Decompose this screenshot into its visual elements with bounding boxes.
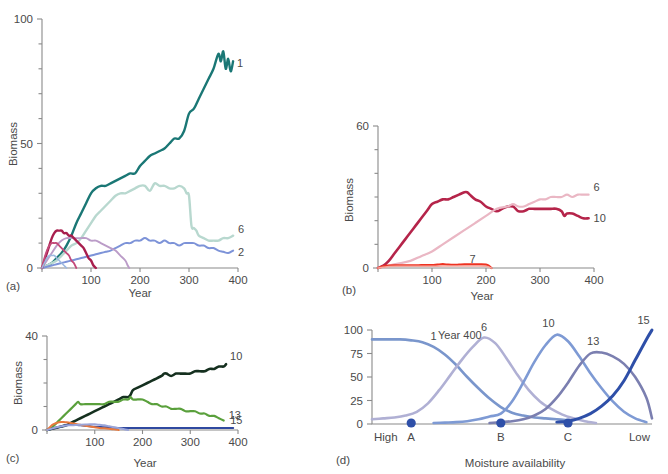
panel-b-series-labels: 1067 xyxy=(469,181,605,265)
series-label-6: 6 xyxy=(481,321,487,333)
y-tick-label: 50 xyxy=(20,138,33,150)
panel-c: 100200300400040 101315 Biomass Year (c) xyxy=(0,312,320,474)
series-label-2: 2 xyxy=(238,246,244,258)
panel-d-xlabel: Moisture availability xyxy=(465,457,566,469)
y-tick-label: 75 xyxy=(350,348,363,360)
panel-c-ticks xyxy=(42,336,238,434)
panel-b: 100200300400060 1067 Biomass Year (b) xyxy=(310,110,668,305)
moisture-point-C xyxy=(563,418,572,427)
series-label-10: 10 xyxy=(594,212,606,224)
series-line-6 xyxy=(42,183,233,268)
y-tick-label: 25 xyxy=(350,395,363,407)
panel-c-plot-area: 100200300400040 101315 xyxy=(25,330,247,448)
x-tick-label: 200 xyxy=(133,436,152,448)
panel-d-curves xyxy=(372,330,652,423)
moisture-point-label-C: C xyxy=(564,431,572,443)
x-tick-label: 100 xyxy=(81,274,100,286)
moisture-point-A xyxy=(407,418,416,427)
series-label-13: 13 xyxy=(587,335,599,347)
series-line-2 xyxy=(42,238,233,268)
panel-c-series-labels: 101315 xyxy=(229,350,243,426)
panel-a-axes xyxy=(42,19,238,268)
x-tick-label: 300 xyxy=(530,274,549,286)
series-line-10 xyxy=(434,335,647,423)
panel-b-plot-area: 100200300400060 1067 xyxy=(356,120,606,286)
panel-b-tick-labels: 100200300400060 xyxy=(356,120,603,286)
y-tick-label: 0 xyxy=(357,418,363,430)
y-tick-label: 60 xyxy=(356,120,369,132)
panel-d-svg: ABC 0255075100HighLow 16101315 Year 400 … xyxy=(330,312,668,474)
series-label-1: 1 xyxy=(237,57,243,69)
series-label-6: 6 xyxy=(594,181,600,193)
x-tick-label: 300 xyxy=(179,274,198,286)
panel-d-annotation: Year 400 xyxy=(438,329,482,341)
panel-a-tag: (a) xyxy=(6,280,20,292)
panel-b-ylabel: Biomass xyxy=(343,178,355,222)
y-tick-label: 50 xyxy=(350,371,363,383)
x-tick-label: 400 xyxy=(228,274,247,286)
panel-b-xlabel: Year xyxy=(470,290,493,302)
series-label-6: 6 xyxy=(238,223,244,235)
panel-a-series-labels: 162 xyxy=(237,57,244,257)
series-label-15: 15 xyxy=(637,314,649,326)
x-tick-label: 100 xyxy=(85,436,104,448)
x-axis-label-high: High xyxy=(374,431,398,443)
y-tick-label: 0 xyxy=(363,262,369,274)
panel-c-curves xyxy=(47,364,233,430)
panel-b-curves xyxy=(378,192,589,268)
panel-a-plot-area: 100200300400050100 162 xyxy=(14,13,248,286)
panel-a: 100200300400050100 162 Biomass Year (a) xyxy=(0,0,300,305)
series-line-10 xyxy=(378,192,589,268)
panel-b-ticks xyxy=(373,126,594,272)
panel-a-curves xyxy=(42,51,233,268)
moisture-point-B xyxy=(496,418,505,427)
panel-d-axes xyxy=(372,330,652,424)
panel-d-tag: (d) xyxy=(336,454,350,466)
x-tick-label: 200 xyxy=(476,274,495,286)
x-tick-label: 400 xyxy=(584,274,603,286)
series-label-10: 10 xyxy=(230,350,242,362)
panel-c-tag: (c) xyxy=(6,452,20,464)
series-line-6 xyxy=(372,337,596,423)
panel-a-xlabel: Year xyxy=(128,287,151,299)
series-label-10: 10 xyxy=(542,317,554,329)
panel-d-plot-area: ABC 0255075100HighLow 16101315 xyxy=(344,314,652,443)
x-tick-label: 100 xyxy=(422,274,441,286)
figure-multipanel: 100200300400050100 162 Biomass Year (a) … xyxy=(0,0,668,474)
x-tick-label: 300 xyxy=(181,436,200,448)
y-tick-label: 100 xyxy=(344,324,363,336)
y-tick-label: 100 xyxy=(14,13,33,25)
panel-c-ylabel: Biomass xyxy=(12,361,24,405)
y-tick-label: 0 xyxy=(32,424,38,436)
panel-a-svg: 100200300400050100 162 Biomass Year (a) xyxy=(0,0,300,305)
panel-a-ylabel: Biomass xyxy=(7,122,19,166)
panel-c-xlabel: Year xyxy=(133,457,156,469)
panel-b-tag: (b) xyxy=(342,284,356,296)
x-tick-label: 200 xyxy=(130,274,149,286)
x-tick-label: 400 xyxy=(228,436,247,448)
panel-d: ABC 0255075100HighLow 16101315 Year 400 … xyxy=(330,312,668,474)
panel-d-ticks xyxy=(367,330,372,424)
series-label-1: 1 xyxy=(431,330,437,342)
series-label-15: 15 xyxy=(230,414,242,426)
moisture-point-label-B: B xyxy=(497,431,505,443)
moisture-point-label-A: A xyxy=(407,431,415,443)
panel-c-svg: 100200300400040 101315 Biomass Year (c) xyxy=(0,312,320,474)
y-tick-label: 0 xyxy=(27,262,33,274)
y-tick-label: 40 xyxy=(25,330,38,342)
series-label-7: 7 xyxy=(469,253,475,265)
series-line-10 xyxy=(47,364,226,430)
x-axis-label-low: Low xyxy=(629,431,651,443)
panel-b-svg: 100200300400060 1067 Biomass Year (b) xyxy=(310,110,668,305)
